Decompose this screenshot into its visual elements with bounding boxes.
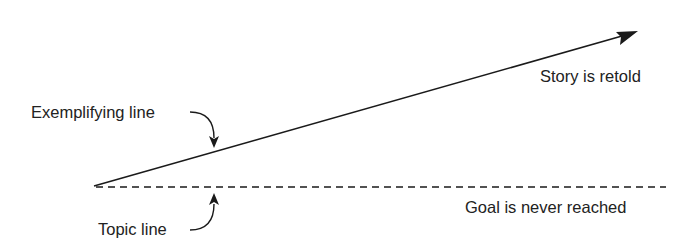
arrowhead-icon (616, 31, 638, 45)
exemplifying-line (94, 31, 638, 186)
curved-arrow-up-icon (190, 193, 219, 230)
diagram-canvas: Exemplifying line Topic line Story is re… (0, 0, 696, 250)
exemplifying-line-label: Exemplifying line (31, 104, 155, 121)
topic-line-label: Topic line (98, 221, 167, 238)
curved-arrow-down-icon (190, 112, 219, 148)
goal-never-reached-label: Goal is never reached (465, 199, 626, 216)
story-retold-label: Story is retold (540, 68, 641, 85)
